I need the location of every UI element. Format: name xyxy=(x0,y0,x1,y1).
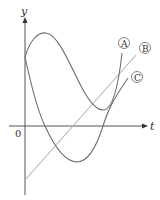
label-a: A xyxy=(120,39,128,49)
t-axis-arrow-icon xyxy=(142,124,148,129)
y-axis-label: y xyxy=(20,5,28,18)
diagram: y t 0 A B C xyxy=(0,0,160,200)
t-axis-label: t xyxy=(150,120,155,133)
curve-c xyxy=(25,57,128,162)
label-b: B xyxy=(142,44,149,54)
origin-label: 0 xyxy=(15,128,21,139)
label-c: C xyxy=(134,73,141,83)
curve-a xyxy=(25,33,122,110)
